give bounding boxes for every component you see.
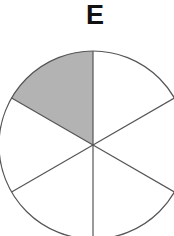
pie-diagram bbox=[0, 0, 174, 236]
shaded-sector bbox=[12, 51, 93, 145]
